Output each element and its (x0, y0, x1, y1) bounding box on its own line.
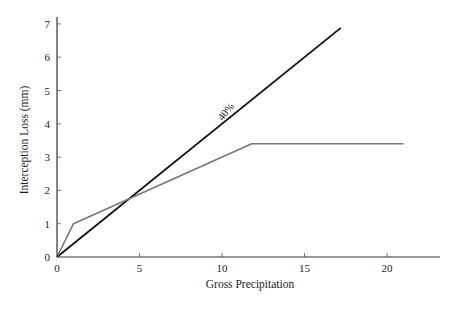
ticks: 0123456705101520 (45, 18, 394, 274)
series-40-percent-line (57, 28, 341, 257)
series-interception-loss-line (57, 144, 404, 257)
x-axis-title: Gross Precipitation (206, 278, 295, 291)
y-tick-label: 6 (45, 51, 51, 63)
series-layer (57, 28, 404, 257)
y-tick-label: 7 (45, 18, 51, 30)
annotation-40-percent: 40% (216, 100, 237, 122)
x-tick-label: 20 (382, 262, 394, 274)
y-tick-label: 5 (45, 85, 51, 97)
x-tick-label: 0 (54, 262, 60, 274)
y-tick-label: 0 (45, 251, 51, 263)
y-tick-label: 2 (45, 184, 51, 196)
annotations: 40% (216, 100, 237, 122)
y-tick-label: 3 (45, 151, 51, 163)
x-tick-label: 15 (299, 262, 311, 274)
y-tick-label: 4 (45, 118, 51, 130)
x-tick-label: 10 (217, 262, 229, 274)
axes (57, 17, 440, 257)
y-axis-title: Interception Loss (mm) (18, 86, 31, 195)
chart: 0123456705101520 Gross Precipitation Int… (0, 0, 462, 311)
x-tick-label: 5 (137, 262, 143, 274)
y-tick-label: 1 (45, 218, 51, 230)
